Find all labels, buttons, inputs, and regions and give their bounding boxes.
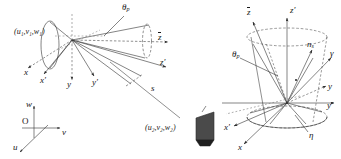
left-angle-theta-label: θp (122, 3, 129, 12)
left-point-label-bottom: (u₂,v₂,w₂) (145, 124, 176, 132)
right-zbar-glyph: z (247, 8, 251, 17)
left-receiver-base (196, 140, 214, 146)
right-axis-label-x: x (238, 143, 242, 152)
right-xprime-glyph: x (224, 122, 228, 132)
left-axis-label-x-prime: x′ (40, 76, 46, 85)
right-n-subscript: s (312, 43, 314, 49)
left-distance-label-s: s (151, 84, 155, 93)
left-uvw-label-origin: O (22, 117, 29, 126)
right-wall-right (313, 37, 327, 122)
left-point-label-top: (u₁,v₁,w₁) (14, 28, 45, 36)
left-zbar-glyph: z (158, 33, 162, 42)
right-eta-leader (295, 115, 308, 132)
right-axis-label-z-prime: z′ (290, 6, 295, 15)
left-diagram-group (20, 14, 214, 152)
right-axis-label-y-prime: y′ (327, 101, 333, 110)
right-axis-xprime-line (234, 103, 287, 126)
left-uvw-label-u: u (13, 143, 18, 152)
right-cone-edge-d (287, 103, 306, 124)
right-axis-zbar-line (253, 22, 287, 103)
left-uvw-label-w: w (26, 100, 32, 109)
figure-vector-graphics (0, 0, 341, 159)
right-lower-ellipse-solid (247, 117, 327, 128)
right-gamma-label: γ (330, 49, 334, 58)
right-axis-y-line (287, 86, 326, 103)
right-axis-label-z-bar: z (247, 8, 251, 17)
left-theta-subscript: p (126, 6, 129, 12)
right-upcone-edge-a (253, 44, 287, 103)
right-zprime-glyph: z (290, 5, 294, 15)
right-wall-left (251, 37, 266, 122)
left-outercone-base-ellipse (143, 24, 152, 58)
left-axis-xprime-line (44, 40, 72, 74)
left-outercone-edge-b (72, 40, 145, 58)
left-axis-label-z-prime: z′ (160, 58, 165, 67)
right-mid-dot (295, 79, 297, 81)
right-diagram-group (222, 18, 334, 144)
left-axis-label-x: x (24, 68, 28, 77)
left-receiver-body (196, 112, 214, 140)
left-axis-zbar-line (72, 40, 168, 42)
right-yprime-glyph: y (327, 100, 331, 110)
right-normal-label: ns (307, 40, 314, 49)
left-zprime-glyph: z (160, 57, 164, 67)
left-axis-x-line (28, 40, 72, 68)
right-eta-label: η (309, 131, 313, 140)
left-lowcone-arc (126, 74, 143, 86)
technical-figure: (u₁,v₁,w₁) (u₂,v₂,w₂) θp x x′ y y′ z z′ … (0, 0, 341, 159)
left-lowcone-edge-b (72, 40, 131, 84)
left-xprime-glyph: x (40, 75, 44, 85)
left-diagonal-construction (58, 30, 100, 50)
right-angle-theta-label: θp (232, 50, 239, 59)
left-uvw-label-v: v (62, 128, 66, 137)
left-axis-label-z-bar: z (158, 33, 162, 42)
right-theta-subscript: p (236, 53, 239, 59)
right-cone-edge-b (287, 103, 322, 112)
left-yprime-glyph: y (92, 77, 96, 87)
right-upcone-edge-c (266, 43, 287, 103)
left-receiver-mast (202, 106, 206, 112)
left-axis-label-y: y (67, 80, 71, 89)
right-axis-x-line (244, 103, 287, 144)
left-theta-leader (104, 16, 124, 36)
left-axis-label-y-prime: y′ (92, 78, 98, 87)
left-s-ray (110, 62, 180, 118)
right-axis-ns-line (287, 50, 312, 103)
left-lowcone-edge-a (72, 40, 141, 76)
right-axis-label-y: y (328, 82, 332, 91)
right-axis-label-x-prime: x′ (224, 123, 230, 132)
left-cone-edge-upper (50, 22, 72, 40)
